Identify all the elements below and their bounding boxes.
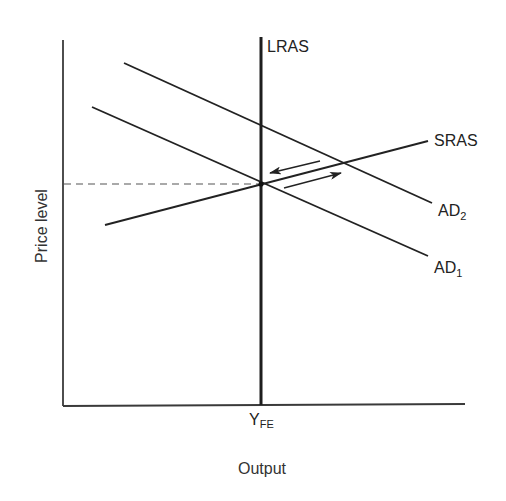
sras-label: SRAS bbox=[434, 132, 478, 149]
lras-label: LRAS bbox=[267, 38, 309, 55]
equilibrium-point bbox=[258, 181, 263, 186]
yfe-label-main: Y bbox=[249, 411, 260, 428]
x-axis-label: Output bbox=[238, 460, 287, 477]
y-axis-label: Price level bbox=[33, 189, 50, 263]
ad2-label-sub: 2 bbox=[460, 210, 466, 222]
ad1-label-sub: 1 bbox=[456, 267, 462, 279]
sras-curve bbox=[105, 141, 428, 225]
ad2-curve bbox=[124, 63, 432, 203]
ad1-label-main: AD bbox=[434, 259, 456, 276]
ad2-label: AD2 bbox=[438, 202, 466, 222]
ad-as-diagram: LRAS SRAS AD2 AD1 YFE Output Price level bbox=[0, 0, 506, 501]
ad2-label-main: AD bbox=[438, 202, 460, 219]
yfe-tick-label: YFE bbox=[249, 411, 274, 430]
x-axis bbox=[63, 404, 465, 406]
ad1-label: AD1 bbox=[434, 259, 462, 279]
yfe-label-sub: FE bbox=[260, 418, 274, 430]
